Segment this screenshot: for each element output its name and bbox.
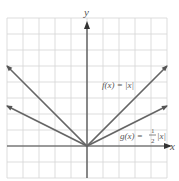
f-label: f(x) = |x|	[102, 80, 134, 90]
y-axis-label: y	[83, 6, 89, 18]
chart: x y f(x) = |x| g(x) = 1 2 |x|	[0, 0, 179, 181]
g-label-suffix: |x|	[157, 131, 166, 141]
y-axis-arrow-icon	[84, 21, 90, 29]
g-label-denominator: 2	[151, 137, 155, 145]
g-label-prefix: g(x) =	[120, 131, 143, 141]
x-axis-label: x	[169, 140, 175, 152]
g-label-numerator: 1	[151, 127, 155, 135]
